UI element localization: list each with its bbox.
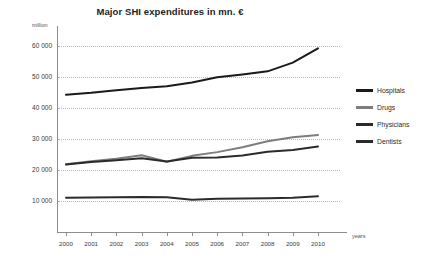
chart-title: Major SHI expenditures in mn. € (0, 6, 340, 17)
x-axis-tick (91, 232, 92, 236)
x-axis-tick (66, 232, 67, 236)
legend-swatch-icon (356, 89, 373, 92)
x-axis-tick (217, 232, 218, 236)
series-line-drugs (66, 135, 318, 164)
legend-label: Hospitals (377, 87, 405, 94)
x-axis-tick (142, 232, 143, 236)
x-axis-tick (167, 232, 168, 236)
legend-swatch-icon (356, 140, 373, 143)
x-axis-tick (116, 232, 117, 236)
chart-container: Major SHI expenditures in mn. € million … (0, 0, 426, 259)
x-axis-tick (242, 232, 243, 236)
y-axis-tick-label: 40 000 (2, 104, 52, 111)
legend-label: Drugs (377, 104, 395, 111)
series-line-dentists (66, 196, 318, 199)
legend-item-physicians[interactable]: Physicians (356, 116, 426, 133)
legend-label: Physicians (377, 121, 410, 128)
legend-item-drugs[interactable]: Drugs (356, 99, 426, 116)
legend-item-dentists[interactable]: Dentists (356, 133, 426, 150)
legend: HospitalsDrugsPhysiciansDentists (356, 82, 426, 150)
x-axis-line (57, 232, 347, 233)
y-axis-tick-label: 60 000 (2, 42, 52, 49)
x-axis-tick (192, 232, 193, 236)
legend-swatch-icon (356, 106, 373, 109)
legend-label: Dentists (377, 138, 402, 145)
y-axis-tick-label: 10 000 (2, 197, 52, 204)
x-axis-tick (293, 232, 294, 236)
y-axis-tick-label: 50 000 (2, 73, 52, 80)
series-line-hospitals (66, 48, 318, 94)
y-axis-unit-label: million (32, 22, 48, 28)
x-axis-tick (268, 232, 269, 236)
series-lines (58, 30, 340, 232)
y-axis-tick-label: 20 000 (2, 166, 52, 173)
x-axis-name-label: years (352, 233, 365, 239)
legend-swatch-icon (356, 123, 373, 126)
x-axis-tick (318, 232, 319, 236)
plot-area (58, 30, 340, 232)
y-axis-tick-label: 30 000 (2, 135, 52, 142)
x-axis-tick-label: 2010 (303, 240, 333, 247)
legend-item-hospitals[interactable]: Hospitals (356, 82, 426, 99)
